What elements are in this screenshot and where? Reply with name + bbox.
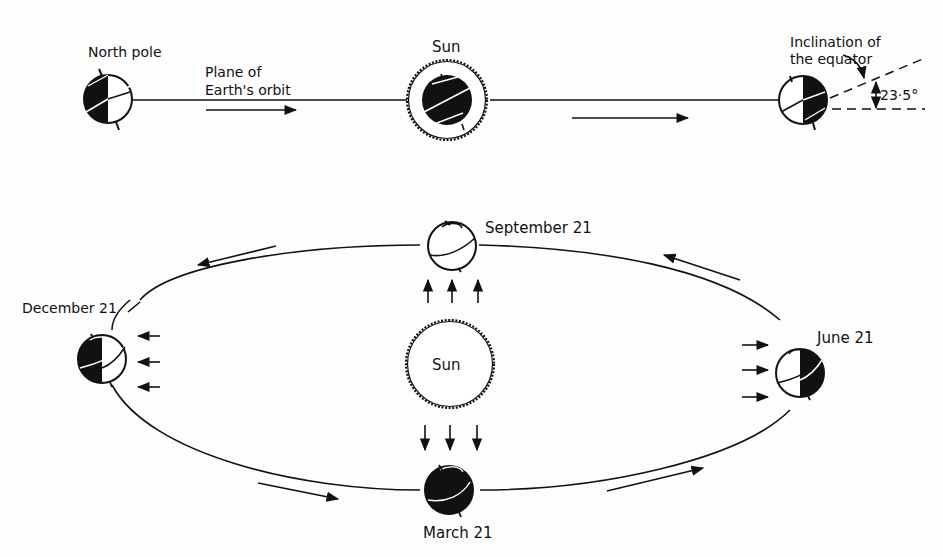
june-label: June 21 — [816, 329, 874, 347]
march-label: March 21 — [423, 524, 493, 542]
sun-label-top: Sun — [432, 38, 461, 56]
inclination-label-2: the equator — [790, 51, 872, 67]
earth-seasons-diagram: North pole Plane of Earth's orbit Sun — [0, 0, 943, 557]
orbit-arrow-top-right — [664, 255, 740, 280]
orbit-arc-top-right — [479, 245, 780, 320]
inclination-label-1: Inclination of — [790, 34, 882, 50]
angle-label: 23·5° — [880, 87, 918, 103]
orbit-arrow-bottom-right — [607, 468, 703, 491]
orbit-arc-bottom-left — [112, 385, 420, 490]
orbit-view: Sun September 21 December 21 — [22, 219, 874, 542]
orbit-arrow-bottom-left — [258, 483, 338, 499]
orbit-plane-label-2: Earth's orbit — [205, 82, 291, 98]
earth-left-side — [84, 69, 132, 130]
sun-label-center: Sun — [432, 356, 461, 374]
sun-side-view — [407, 60, 487, 140]
earth-march — [425, 465, 473, 517]
north-pole-label: North pole — [88, 44, 162, 60]
earth-right-side — [779, 76, 827, 130]
december-leader — [128, 302, 140, 312]
december-label: December 21 — [22, 300, 117, 316]
earth-december — [78, 334, 126, 387]
orbit-plane-label-1: Plane of — [205, 64, 262, 80]
orbit-arc-bottom-right — [480, 410, 790, 490]
earth-september — [428, 221, 476, 272]
top-row-side-view: North pole Plane of Earth's orbit Sun — [84, 34, 925, 140]
september-label: September 21 — [485, 219, 592, 237]
orbit-arc-top-left — [140, 245, 420, 300]
earth-june — [776, 349, 824, 400]
